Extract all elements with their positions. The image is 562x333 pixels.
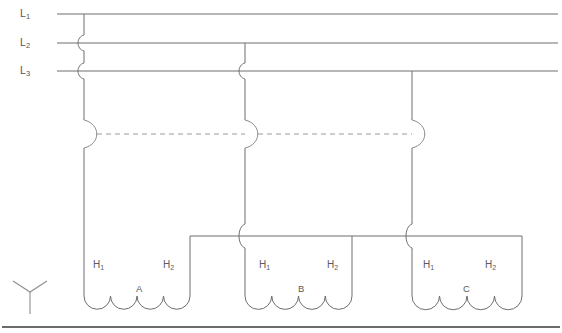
drop-line-phase-b xyxy=(239,43,245,256)
terminal-label-c-h1-sub: 1 xyxy=(430,264,434,271)
terminal-label-c-h2: H2 xyxy=(485,259,496,270)
drop-line-phase-c xyxy=(406,71,412,256)
wiring-diagram-canvas: L1 L2 L3 H1 H2 H1 H2 H1 H2 A B C xyxy=(0,0,562,333)
wye-connection-symbol xyxy=(13,281,47,314)
terminal-label-a-h2: H2 xyxy=(163,259,174,270)
contactor-c[interactable] xyxy=(412,120,425,148)
drop-line-phase-a xyxy=(78,14,84,256)
terminal-label-b-h1-sub: 1 xyxy=(266,264,270,271)
coil-label-b: B xyxy=(298,283,304,294)
supply-line-label-l3: L3 xyxy=(20,64,30,76)
interconnect-bus xyxy=(190,236,522,256)
terminal-label-c-h2-sub: 2 xyxy=(492,264,496,271)
supply-line-label-l2-sub: 2 xyxy=(26,41,30,50)
supply-line-label-l1: L1 xyxy=(20,7,30,19)
terminal-label-b-h1: H1 xyxy=(259,259,270,270)
terminal-label-b-h2-sub: 2 xyxy=(334,264,338,271)
coil-label-a: A xyxy=(136,283,142,294)
supply-line-label-l3-sub: 3 xyxy=(26,69,30,78)
terminal-label-a-h1-sub: 1 xyxy=(100,264,104,271)
terminal-label-c-h1: H1 xyxy=(423,259,434,270)
supply-line-label-l2: L2 xyxy=(20,36,30,48)
contactor-a[interactable] xyxy=(84,120,245,148)
supply-line-label-l1-sub: 1 xyxy=(26,12,30,21)
terminal-label-a-h2-sub: 2 xyxy=(170,264,174,271)
contactor-b[interactable] xyxy=(245,120,412,148)
terminal-label-b-h2: H2 xyxy=(327,259,338,270)
coil-label-c: C xyxy=(463,283,470,294)
diagram-svg xyxy=(0,0,562,333)
terminal-label-a-h1: H1 xyxy=(93,259,104,270)
